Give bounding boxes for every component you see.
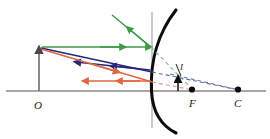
- convex-mirror: [151, 10, 176, 133]
- center-point-dot: [235, 86, 241, 92]
- virtual-ray-green-extension: [151, 47, 193, 90]
- optics-diagram-canvas: O F C I: [0, 0, 270, 139]
- label-focus: F: [188, 97, 196, 109]
- label-object: O: [34, 99, 42, 111]
- ray-parallel-reflected-arrow: [128, 28, 148, 45]
- label-image: I: [179, 62, 184, 72]
- focus-point-dot: [189, 86, 195, 92]
- ray-diagram-figure: O F C I: [0, 0, 270, 139]
- label-center: C: [234, 97, 242, 109]
